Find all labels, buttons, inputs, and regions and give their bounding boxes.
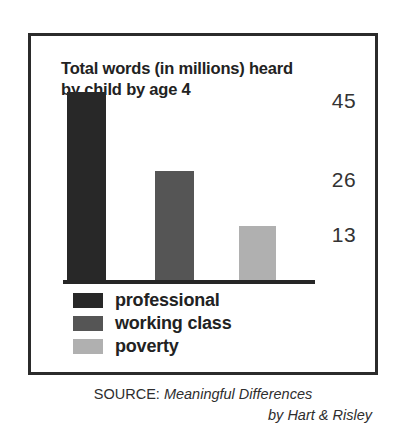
bar-poverty (239, 226, 276, 280)
axis-baseline (63, 280, 315, 284)
legend-label: poverty (115, 336, 179, 357)
legend-item: working class (73, 312, 343, 335)
legend-swatch-icon (73, 293, 103, 308)
bars-group (67, 92, 327, 280)
legend-label: professional (115, 290, 220, 311)
legend-item: professional (73, 289, 343, 312)
legend-swatch-icon (73, 316, 103, 331)
legend-item: poverty (73, 335, 343, 358)
value-label-working-class: 26 (321, 168, 367, 192)
bar-professional (67, 92, 106, 280)
source-caption: SOURCE: Meaningful Differences by Hart &… (28, 384, 378, 426)
value-label-poverty: 13 (321, 223, 367, 247)
source-title: Meaningful Differences (160, 386, 312, 402)
value-label-professional: 45 (321, 89, 367, 113)
chart-figure-frame: Total words (in millions) heard by child… (28, 33, 378, 375)
chart-legend: professionalworking classpoverty (73, 289, 343, 358)
bar-working-class (155, 171, 194, 280)
legend-label: working class (115, 313, 231, 334)
source-author: by Hart & Risley (28, 405, 378, 426)
source-line-primary: SOURCE: Meaningful Differences (28, 384, 378, 405)
source-label: SOURCE: (94, 386, 160, 402)
legend-swatch-icon (73, 339, 103, 354)
